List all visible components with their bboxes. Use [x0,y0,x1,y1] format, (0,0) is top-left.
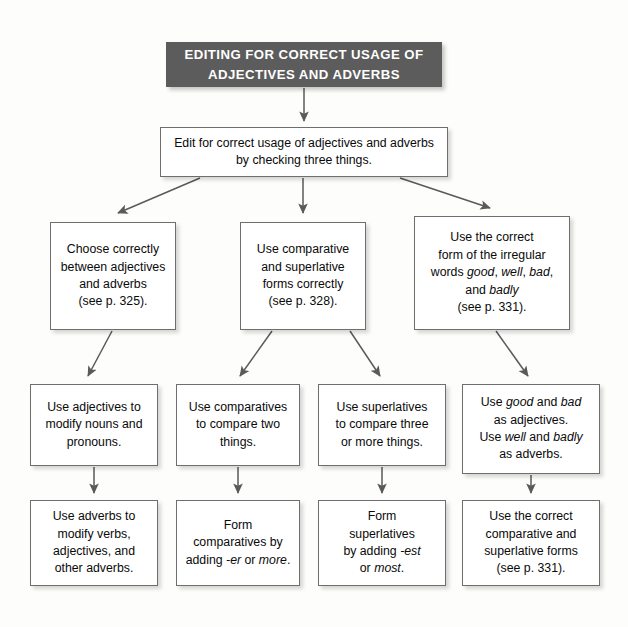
node-comparative-superlative-text: Use comparativeand superlativeforms corr… [251,239,355,313]
node-adjectives-modify-nouns: Use adjectives tomodify nouns andpronoun… [30,384,158,466]
node-choose-correctly: Choose correctlybetween adjectivesand ad… [50,222,176,330]
title-banner-text: EDITING FOR CORRECT USAGE OF ADJECTIVES … [166,45,442,83]
node-form-superlatives: Formsuperlativesby adding -estor most. [318,500,446,586]
node-root-text: Edit for correct usage of adjectives and… [161,133,447,172]
node-correct-comparative-superlative-text: Use the correctcomparative andsuperlativ… [478,506,584,580]
node-irregular-words: Use the correctform of the irregularword… [414,216,570,330]
connector-choose-to-adjectives [88,331,112,376]
node-comparatives-two-things: Use comparativesto compare twothings. [176,384,300,466]
node-form-superlatives-text: Formsuperlativesby adding -estor most. [337,506,426,580]
node-superlatives-three-things: Use superlativesto compare threeor more … [318,384,446,466]
connector-comparative-to-comparatives [240,331,272,376]
connector-comparative-to-superlatives [350,331,380,376]
node-choose-correctly-text: Choose correctlybetween adjectivesand ad… [55,239,172,313]
node-superlatives-three-things-text: Use superlativesto compare threeor more … [330,397,435,453]
node-comparative-superlative: Use comparativeand superlativeforms corr… [240,222,366,330]
node-root: Edit for correct usage of adjectives and… [160,127,448,177]
flowchart-page: EDITING FOR CORRECT USAGE OF ADJECTIVES … [0,0,628,627]
node-adverbs-modify-verbs-text: Use adverbs tomodify verbs,adjectives, a… [47,506,142,580]
node-irregular-words-text: Use the correctform of the irregularword… [425,227,559,318]
node-adjectives-modify-nouns-text: Use adjectives tomodify nouns andpronoun… [39,397,148,453]
node-comparatives-two-things-text: Use comparativesto compare twothings. [183,397,293,453]
node-form-comparatives-text: Formcomparatives byadding -er or more. [180,515,297,571]
node-good-bad-adjectives-text: Use good and badas adjectives.Use well a… [473,392,588,466]
connector-root-to-irregular [400,178,490,208]
connector-root-to-choose [118,178,200,213]
node-correct-comparative-superlative: Use the correctcomparative andsuperlativ… [462,500,600,586]
connector-irregular-to-goodbad [496,331,528,376]
node-adverbs-modify-verbs: Use adverbs tomodify verbs,adjectives, a… [30,500,158,586]
node-good-bad-adjectives: Use good and badas adjectives.Use well a… [462,384,600,474]
node-form-comparatives: Formcomparatives byadding -er or more. [176,500,300,586]
title-banner: EDITING FOR CORRECT USAGE OF ADJECTIVES … [166,42,442,87]
